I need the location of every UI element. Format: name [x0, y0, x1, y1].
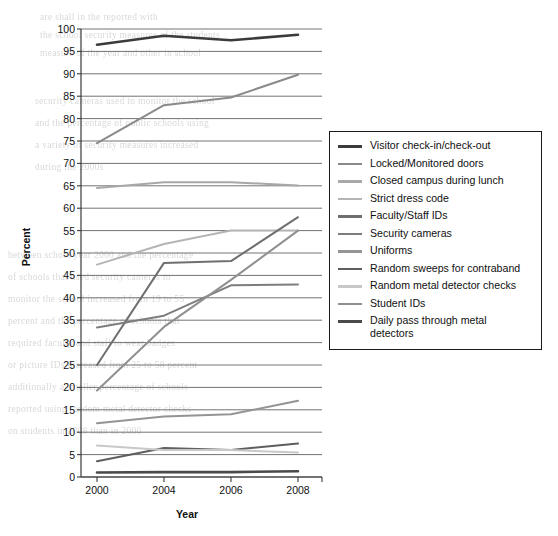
- y-axis-tick-label: 65: [41, 180, 75, 192]
- legend-item-label: Locked/Monitored doors: [370, 157, 484, 170]
- legend-line-swatch-icon: [338, 163, 362, 166]
- y-axis-tick-label: 95: [41, 45, 75, 57]
- y-axis-tick-label: 100: [41, 23, 75, 35]
- x-axis-title: Year: [176, 508, 198, 520]
- y-axis-tick-label: 50: [41, 247, 75, 259]
- x-axis-tick-label: 2000: [85, 484, 108, 496]
- y-axis-tick-label: 20: [41, 381, 75, 393]
- legend-item[interactable]: Random sweeps for contraband: [336, 262, 533, 275]
- legend-item[interactable]: Strict dress code: [336, 192, 533, 205]
- legend-item-label: Student IDs: [370, 297, 425, 310]
- legend-item[interactable]: Student IDs: [336, 297, 533, 310]
- y-axis-tick-label: 30: [41, 337, 75, 349]
- legend-line-swatch-icon: [338, 285, 362, 288]
- legend-line-swatch-icon: [338, 233, 362, 236]
- y-axis-tick-label: 55: [41, 225, 75, 237]
- y-axis-tick-label: 60: [41, 202, 75, 214]
- legend-item-label: Strict dress code: [370, 192, 449, 205]
- y-axis-tick-label: 80: [41, 113, 75, 125]
- series-line: [97, 35, 298, 45]
- legend-line-swatch-icon: [338, 303, 362, 306]
- y-axis-tick-label: 40: [41, 292, 75, 304]
- legend-item-label: Random sweeps for contraband: [370, 262, 520, 275]
- legend-item[interactable]: Security cameras: [336, 227, 533, 240]
- legend-item[interactable]: Uniforms: [336, 244, 533, 257]
- series-line: [97, 182, 298, 188]
- y-axis-tick-label: 10: [41, 426, 75, 438]
- legend-item-label: Closed campus during lunch: [370, 174, 504, 187]
- x-axis-tick-label: 2004: [152, 484, 175, 496]
- legend-item-label: Security cameras: [370, 227, 452, 240]
- series-line: [97, 401, 298, 423]
- series-line: [97, 75, 298, 144]
- legend-item[interactable]: Locked/Monitored doors: [336, 157, 533, 170]
- y-axis-tick-label: 70: [41, 157, 75, 169]
- chart-legend: Visitor check-in/check-outLocked/Monitor…: [329, 131, 542, 350]
- x-axis-tick-label: 2006: [219, 484, 242, 496]
- series-line: [97, 471, 298, 472]
- legend-item[interactable]: Closed campus during lunch: [336, 174, 533, 187]
- legend-line-swatch-icon: [338, 268, 362, 271]
- legend-item-label: Visitor check-in/check-out: [370, 139, 491, 152]
- legend-line-swatch-icon: [338, 215, 362, 218]
- y-axis-tick-label: 5: [41, 449, 75, 461]
- legend-line-swatch-icon: [338, 250, 362, 253]
- series-line: [97, 284, 298, 327]
- y-axis-tick-label: 45: [41, 269, 75, 281]
- legend-line-swatch-icon: [338, 145, 362, 148]
- legend-item-label: Random metal detector checks: [370, 279, 516, 292]
- legend-item-label: Faculty/Staff IDs: [370, 209, 448, 222]
- y-axis-tick-label: 75: [41, 135, 75, 147]
- chart-page: are shall in the reported withthe school…: [0, 0, 558, 536]
- legend-item[interactable]: Visitor check-in/check-out: [336, 139, 533, 152]
- y-axis-tick-label: 35: [41, 314, 75, 326]
- legend-line-swatch-icon: [338, 180, 362, 183]
- legend-item[interactable]: Faculty/Staff IDs: [336, 209, 533, 222]
- y-axis-title: Percent: [20, 228, 32, 267]
- legend-item-label: Daily pass through metal detectors: [370, 314, 533, 340]
- legend-item[interactable]: Daily pass through metal detectors: [336, 314, 533, 340]
- x-axis-tick-label: 2008: [286, 484, 309, 496]
- legend-item[interactable]: Random metal detector checks: [336, 279, 533, 292]
- y-axis-tick-label: 0: [41, 471, 75, 483]
- y-axis-tick-label: 90: [41, 68, 75, 80]
- legend-line-swatch-icon: [338, 198, 362, 201]
- legend-line-swatch-icon: [338, 320, 362, 323]
- series-line: [97, 231, 298, 265]
- legend-item-label: Uniforms: [370, 244, 412, 257]
- y-axis-tick-label: 25: [41, 359, 75, 371]
- y-axis-tick-label: 15: [41, 404, 75, 416]
- y-axis-tick-label: 85: [41, 90, 75, 102]
